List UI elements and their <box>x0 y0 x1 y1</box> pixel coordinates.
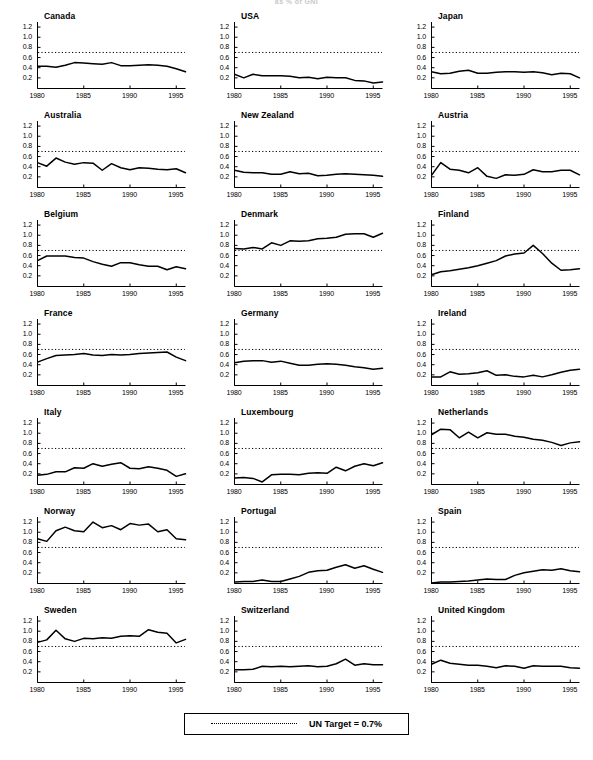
series-line <box>235 74 383 83</box>
y-tick-label: 0.4 <box>207 163 229 170</box>
y-tick-label: 0.2 <box>10 668 32 675</box>
axis-lines <box>235 418 383 485</box>
panel-usa: USA1.21.00.80.60.40.21980198519901995 <box>197 10 386 109</box>
y-tick-label: 1.0 <box>207 33 229 40</box>
plot-area <box>431 517 581 585</box>
panel-row: Belgium1.21.00.80.60.40.2198019851990199… <box>0 208 593 307</box>
axis-lines <box>38 517 186 584</box>
y-tick-label: 0.6 <box>10 648 32 655</box>
series-line <box>235 170 383 176</box>
x-tick-label: 1995 <box>556 92 584 99</box>
y-tick-label: 1.2 <box>404 23 426 30</box>
y-tick-label: 0.8 <box>10 538 32 545</box>
y-tick-label: 1.0 <box>10 528 32 535</box>
panel-australia: Australia1.21.00.80.60.40.21980198519901… <box>0 109 189 208</box>
y-tick-label: 0.2 <box>207 569 229 576</box>
y-tick-label: 1.2 <box>207 221 229 228</box>
y-tick-label: 0.6 <box>404 54 426 61</box>
x-tick-label: 1990 <box>116 686 144 693</box>
y-tick-label: 1.2 <box>207 518 229 525</box>
y-tick-label: 1.2 <box>10 617 32 624</box>
panel-row: Canada1.21.00.80.60.40.21980198519901995… <box>0 10 593 109</box>
x-tick-label: 1990 <box>510 686 538 693</box>
y-tick-label: 0.4 <box>207 559 229 566</box>
x-tick-label: 1990 <box>510 389 538 396</box>
y-tick-label: 0.4 <box>10 460 32 467</box>
panel-switzerland: Switzerland1.21.00.80.60.40.219801985199… <box>197 604 386 703</box>
y-tick-label: 0.8 <box>404 439 426 446</box>
x-tick-label: 1980 <box>23 191 51 198</box>
panel-row: Sweden1.21.00.80.60.40.21980198519901995… <box>0 604 593 703</box>
y-tick-label: 0.6 <box>404 648 426 655</box>
y-tick-label: 0.8 <box>404 43 426 50</box>
x-tick-label: 1990 <box>510 488 538 495</box>
y-tick-label: 0.4 <box>10 658 32 665</box>
y-tick-label: 1.2 <box>10 518 32 525</box>
panel-france: France1.21.00.80.60.40.21980198519901995 <box>0 307 189 406</box>
y-tick-label: 1.2 <box>10 221 32 228</box>
plot-area <box>37 22 187 90</box>
y-tick-label: 1.2 <box>404 518 426 525</box>
x-tick-label: 1995 <box>556 587 584 594</box>
x-tick-label: 1985 <box>266 389 294 396</box>
panel-denmark: Denmark1.21.00.80.60.40.2198019851990199… <box>197 208 386 307</box>
x-tick-label: 1980 <box>220 191 248 198</box>
series-line <box>235 565 383 582</box>
y-tick-label: 1.2 <box>10 320 32 327</box>
legend: UN Target = 0.7% <box>0 713 593 735</box>
panel-spain: Spain1.21.00.80.60.40.21980198519901995 <box>394 505 583 604</box>
x-tick-label: 1995 <box>162 191 190 198</box>
panel-title: United Kingdom <box>438 605 505 615</box>
y-tick-label: 0.6 <box>404 549 426 556</box>
x-tick-label: 1995 <box>162 686 190 693</box>
y-tick-label: 1.0 <box>207 132 229 139</box>
y-tick-label: 1.2 <box>207 617 229 624</box>
x-tick-label: 1995 <box>556 389 584 396</box>
y-tick-label: 1.0 <box>404 33 426 40</box>
y-tick-label: 0.2 <box>10 173 32 180</box>
panel-title: New Zealand <box>241 110 294 120</box>
x-tick-label: 1980 <box>23 488 51 495</box>
x-tick-label: 1995 <box>359 290 387 297</box>
legend-label: UN Target = 0.7% <box>309 719 382 729</box>
x-tick-label: 1980 <box>220 587 248 594</box>
series-line <box>38 256 186 270</box>
y-tick-label: 1.0 <box>207 231 229 238</box>
y-tick-label: 1.0 <box>10 330 32 337</box>
y-tick-label: 0.8 <box>207 43 229 50</box>
y-tick-label: 0.4 <box>10 163 32 170</box>
plot-area <box>37 517 187 585</box>
axis-lines <box>235 121 383 188</box>
y-tick-label: 0.4 <box>10 64 32 71</box>
series-line <box>235 233 383 249</box>
y-tick-label: 1.0 <box>404 429 426 436</box>
y-tick-label: 1.2 <box>10 23 32 30</box>
y-tick-label: 1.0 <box>10 132 32 139</box>
x-tick-label: 1990 <box>313 686 341 693</box>
x-tick-label: 1995 <box>359 389 387 396</box>
plot-area <box>234 22 384 90</box>
plot-area <box>234 517 384 585</box>
plot-area <box>431 319 581 387</box>
plot-area <box>37 220 187 288</box>
y-tick-label: 0.4 <box>10 559 32 566</box>
x-tick-label: 1980 <box>417 587 445 594</box>
plot-area <box>37 616 187 684</box>
panel-title: Denmark <box>241 209 278 219</box>
panel-title: Portugal <box>241 506 276 516</box>
y-tick-label: 1.0 <box>404 528 426 535</box>
panel-title: Norway <box>44 506 75 516</box>
x-tick-label: 1995 <box>359 587 387 594</box>
x-tick-label: 1985 <box>463 191 491 198</box>
series-line <box>38 158 186 173</box>
plot-area <box>234 616 384 684</box>
series-line <box>38 352 186 362</box>
panel-title: Japan <box>438 11 463 21</box>
y-tick-label: 0.4 <box>207 460 229 467</box>
y-tick-label: 0.8 <box>207 142 229 149</box>
panel-row: Australia1.21.00.80.60.40.21980198519901… <box>0 109 593 208</box>
y-tick-label: 1.0 <box>207 330 229 337</box>
x-tick-label: 1995 <box>359 488 387 495</box>
y-tick-label: 0.4 <box>404 361 426 368</box>
y-tick-label: 1.0 <box>207 627 229 634</box>
